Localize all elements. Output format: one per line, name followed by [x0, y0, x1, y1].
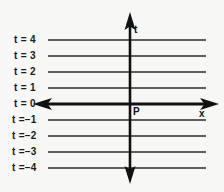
level-label-t2: t = 2: [14, 67, 36, 77]
level-label-t1: t = 1: [14, 83, 36, 93]
x-axis-label: x: [199, 109, 205, 119]
x-axis: [33, 98, 219, 110]
level-label-t3: t = 3: [14, 51, 36, 61]
level-label-t0: t = 0: [14, 99, 36, 109]
level-label-tneg1: t =–1: [12, 115, 37, 125]
t-axis: [125, 12, 136, 184]
diagram-canvas: t = 4 t = 3 t = 2 t = 1 t = 0 t =–1 t =–…: [0, 0, 224, 192]
level-label-tneg4: t =–4: [12, 163, 37, 173]
level-label-tneg3: t =–3: [12, 147, 37, 157]
level-label-t4: t = 4: [14, 35, 36, 45]
origin-point-label: P: [133, 107, 140, 117]
t-axis-label: t: [134, 25, 137, 35]
level-label-tneg2: t =–2: [12, 131, 37, 141]
